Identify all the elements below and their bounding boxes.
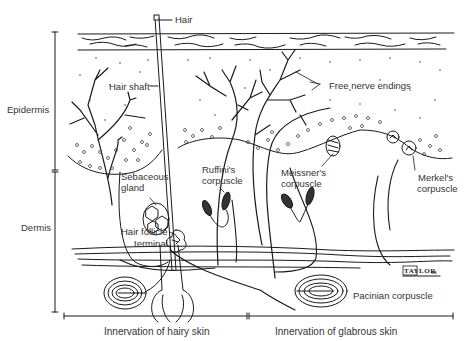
- label-innervation-hairy: Innervation of hairy skin: [104, 326, 210, 337]
- label-free-nerve-endings: Free nerve endings: [329, 80, 411, 91]
- label-hair-shaft: Hair shaft: [109, 81, 150, 92]
- dermis-bracket: [52, 172, 58, 312]
- label-hair: Hair: [175, 14, 192, 25]
- label-pacinian-corpuscle: Pacinian corpuscle: [353, 290, 433, 301]
- label-dermis: Dermis: [21, 222, 51, 233]
- pacinian-corpuscle-hairy: [104, 260, 170, 309]
- nerve-plexus: [72, 246, 454, 268]
- label-innervation-glabrous: Innervation of glabrous skin: [275, 326, 397, 337]
- epidermis-bracket: [52, 32, 58, 170]
- artist-signature-year: 08: [431, 270, 437, 275]
- region-brackets: [64, 313, 453, 319]
- ruffini-corpuscles: [200, 191, 231, 227]
- meissner-corpuscles-dermal: [279, 186, 316, 222]
- label-epidermis: Epidermis: [7, 104, 49, 115]
- epidermal-cells: [76, 115, 442, 170]
- merkel-corpuscles: [387, 131, 416, 155]
- pacinian-corpuscle-glabrous: [295, 275, 347, 307]
- stratum-corneum: [78, 33, 454, 50]
- hair-shaft: [152, 15, 194, 322]
